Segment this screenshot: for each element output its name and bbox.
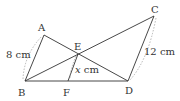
label-ef-length: x cm — [75, 64, 99, 75]
label-point-c: C — [151, 4, 159, 15]
ef-unit: cm — [81, 64, 100, 75]
label-point-e: E — [74, 41, 81, 52]
label-point-f: F — [63, 87, 70, 98]
label-point-d: D — [125, 85, 133, 96]
label-ab-length: 8 cm — [6, 49, 31, 60]
label-point-a: A — [37, 22, 46, 33]
label-point-b: B — [18, 87, 25, 98]
geometry-diagram: A B C D E F 8 cm 12 cm x cm — [0, 0, 180, 101]
label-cd-length: 12 cm — [144, 46, 176, 57]
